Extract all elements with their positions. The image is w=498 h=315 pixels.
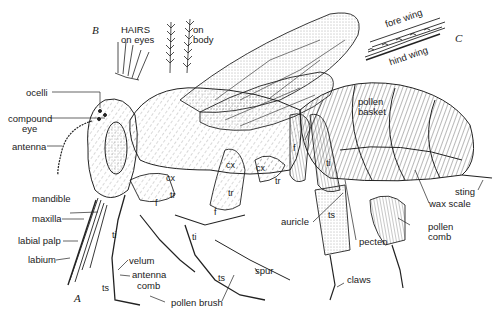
bee-anatomy-diagram: B C A HAIRS on eyes on body fore wing hi… bbox=[0, 0, 498, 315]
compound-eye bbox=[105, 122, 127, 174]
branched-hairs-icon bbox=[166, 19, 194, 73]
panel-label-c: C bbox=[455, 33, 462, 43]
label-compound-eye-2: eye bbox=[22, 124, 37, 134]
label-hindleg-cx: cx bbox=[256, 163, 265, 173]
label-claws: claws bbox=[347, 275, 371, 285]
label-pecten: pecten bbox=[359, 237, 388, 247]
label-midleg-ti: ti bbox=[192, 232, 197, 242]
label-midleg-tr: tr bbox=[228, 188, 234, 198]
mouthparts bbox=[68, 198, 107, 285]
label-pollen-brush: pollen brush bbox=[171, 298, 223, 308]
label-midleg-cx: cx bbox=[226, 160, 235, 170]
head bbox=[88, 99, 138, 198]
label-hindleg-f: f bbox=[293, 143, 296, 153]
label-body: body bbox=[193, 35, 214, 45]
label-foreleg-f: f bbox=[155, 198, 158, 208]
label-ocelli: ocelli bbox=[26, 88, 48, 98]
label-maxilla: maxilla bbox=[32, 214, 62, 224]
label-midleg-ts: ts bbox=[218, 273, 225, 283]
panel-label-a: A bbox=[74, 293, 81, 303]
label-midleg-f: f bbox=[214, 207, 217, 217]
label-auricle: auricle bbox=[281, 217, 309, 227]
label-hindleg-tr: tr bbox=[275, 176, 281, 186]
panel-label-b: B bbox=[92, 25, 99, 35]
hairs-on-eyes-icon bbox=[115, 42, 149, 80]
label-velum: velum bbox=[129, 256, 154, 266]
label-labial-palp: labial palp bbox=[18, 236, 61, 246]
label-hindleg-ts: ts bbox=[328, 210, 335, 220]
label-foreleg-ts: ts bbox=[102, 283, 109, 293]
ocellus bbox=[99, 110, 102, 113]
label-wax-scale: wax scale bbox=[429, 199, 471, 209]
label-labium: labium bbox=[28, 255, 56, 265]
label-foreleg-cx: cx bbox=[166, 173, 175, 183]
label-on-eyes: on eyes bbox=[121, 35, 154, 45]
label-hindleg-ti: ti bbox=[326, 158, 331, 168]
label-antenna-comb-1: antenna bbox=[132, 270, 166, 280]
label-sting: sting bbox=[455, 187, 475, 197]
antenna bbox=[58, 121, 92, 175]
label-pollen-comb-2: comb bbox=[428, 232, 451, 242]
label-antenna-comb-2: comb bbox=[137, 281, 160, 291]
label-spur: spur bbox=[255, 266, 273, 276]
label-pollen-basket-2: basket bbox=[358, 107, 386, 117]
label-foreleg-ti: ti bbox=[112, 230, 117, 240]
label-foreleg-tr: tr bbox=[170, 190, 176, 200]
label-mandible: mandible bbox=[32, 194, 71, 204]
label-antenna: antenna bbox=[12, 142, 46, 152]
